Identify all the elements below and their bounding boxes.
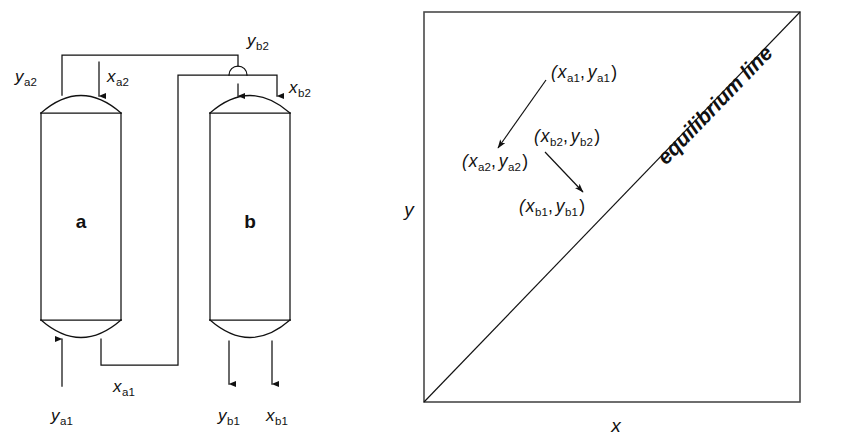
point-label-xa1-ya1: (xa1,ya1) [551,62,617,84]
point-label-xa2-ya2: (xa2,ya2) [462,151,528,173]
point-label-xb2-yb2: (xb2,yb2) [534,126,600,148]
y-axis-label: y [402,199,415,220]
point-label-xb1-yb1: (xb1,yb1) [519,196,585,218]
stream-label-xb1: xb1 [265,406,288,427]
figure-root: a b ya2 xa2 yb2 xb2 ya1 xa1 yb1 xb1 (xa1… [0,0,847,441]
equilibrium-line-label: equilibrium line [652,41,777,169]
stream-label-xa1: xa1 [112,377,135,398]
stream-label-yb1: yb1 [217,406,240,427]
stream-label-ya1: ya1 [50,406,73,427]
equilibrium-plot: (xa1,ya1) (xa2,ya2) (xb2,yb2) (xb1,yb1) … [402,12,800,436]
column-a-label: a [76,211,87,232]
stream-label-xa2: xa2 [106,67,129,88]
figure-canvas: a b ya2 xa2 yb2 xb2 ya1 xa1 yb1 xb1 (xa1… [0,0,847,441]
column-b-label: b [244,211,256,232]
stream-label-ya2: ya2 [14,67,37,88]
x-axis-label: x [610,415,622,436]
annotation-arrow-b2-to-b1 [545,152,583,192]
stream-label-xb2: xb2 [288,78,311,99]
stream-label-yb2: yb2 [246,31,269,52]
